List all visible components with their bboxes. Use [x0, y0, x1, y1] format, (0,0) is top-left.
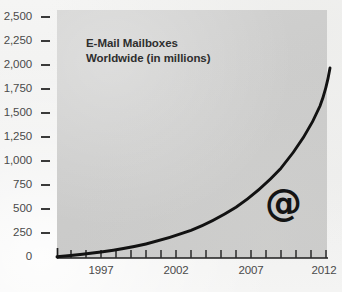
- x-tick-label-2012: 2012: [311, 264, 336, 276]
- x-tick-label-2002: 2002: [163, 264, 188, 276]
- chart-container: 2,500 2,250 2,000 1,750 1,500 1,250 1,00…: [0, 0, 342, 292]
- x-tick-label-1997: 1997: [88, 264, 113, 276]
- series-line-email-mailboxes: [57, 68, 330, 257]
- x-tick-label-2007: 2007: [238, 264, 263, 276]
- at-icon: @: [265, 183, 302, 223]
- chart-title: E-Mail Mailboxes Worldwide (in millions): [86, 36, 211, 66]
